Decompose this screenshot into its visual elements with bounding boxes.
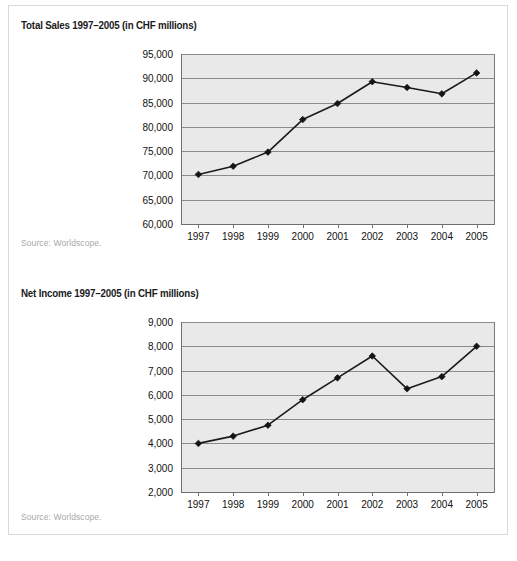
x-axis-tick-label: 2004 [431, 499, 454, 510]
y-axis-tick-label: 80,000 [142, 122, 173, 133]
content-frame: Total Sales 1997–2005 (in CHF millions) … [8, 5, 508, 535]
x-axis-tick-label: 1999 [257, 499, 280, 510]
chart-title-net-income: Net Income 1997–2005 (in CHF millions) [21, 287, 198, 299]
chart-title-total-sales: Total Sales 1997–2005 (in CHF millions) [21, 19, 196, 31]
y-axis-tick-label: 75,000 [142, 146, 173, 157]
x-axis-tick-label: 1997 [187, 499, 210, 510]
figure-total-sales: Total Sales 1997–2005 (in CHF millions) … [9, 6, 509, 271]
y-axis-tick-label: 4,000 [148, 438, 173, 449]
line-chart-total-sales: 60,00065,00070,00075,00080,00085,00090,0… [129, 42, 499, 242]
x-axis-tick-label: 2003 [396, 499, 419, 510]
y-axis-tick-label: 2,000 [148, 487, 173, 498]
y-axis-tick-label: 70,000 [142, 170, 173, 181]
line-chart-net-income: 2,0003,0004,0005,0006,0007,0008,0009,000… [129, 310, 499, 510]
y-axis-tick-label: 8,000 [148, 341, 173, 352]
plot-area-background [182, 323, 495, 493]
x-axis-tick-label: 2000 [292, 231, 315, 242]
chart-plot-total-sales: 60,00065,00070,00075,00080,00085,00090,0… [129, 42, 499, 242]
y-axis-tick-label: 90,000 [142, 73, 173, 84]
figure-net-income: Net Income 1997–2005 (in CHF millions) 2… [9, 278, 509, 536]
x-axis-tick-label: 2005 [465, 231, 488, 242]
y-axis-tick-label: 95,000 [142, 49, 173, 60]
plot-area-background [182, 55, 495, 225]
x-axis-tick-label: 2004 [431, 231, 454, 242]
x-axis-tick-label: 1998 [222, 499, 245, 510]
y-axis-tick-label: 6,000 [148, 390, 173, 401]
x-axis-tick-label: 2002 [361, 499, 384, 510]
x-axis-tick-label: 2001 [326, 231, 349, 242]
x-axis-tick-label: 2000 [292, 499, 315, 510]
x-axis-tick-label: 2002 [361, 231, 384, 242]
y-axis-tick-label: 5,000 [148, 414, 173, 425]
chart-source-net-income: Source: Worldscope. [21, 512, 102, 522]
y-axis-tick-label: 7,000 [148, 366, 173, 377]
x-axis-tick-label: 2005 [465, 499, 488, 510]
y-axis-tick-label: 85,000 [142, 98, 173, 109]
y-axis-tick-label: 3,000 [148, 463, 173, 474]
chart-source-total-sales: Source: Worldscope. [21, 238, 102, 248]
x-axis-tick-label: 2001 [326, 499, 349, 510]
x-axis-tick-label: 1999 [257, 231, 280, 242]
x-axis-tick-label: 1998 [222, 231, 245, 242]
y-axis-tick-label: 65,000 [142, 195, 173, 206]
chart-plot-net-income: 2,0003,0004,0005,0006,0007,0008,0009,000… [129, 310, 499, 510]
x-axis-tick-label: 1997 [187, 231, 210, 242]
x-axis-tick-label: 2003 [396, 231, 419, 242]
y-axis-tick-label: 9,000 [148, 317, 173, 328]
page-root: Total Sales 1997–2005 (in CHF millions) … [0, 0, 517, 561]
y-axis-tick-label: 60,000 [142, 219, 173, 230]
